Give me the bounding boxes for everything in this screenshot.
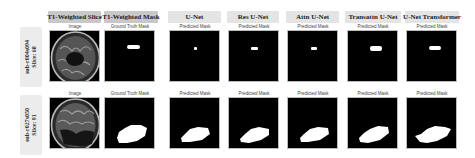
row-2-slice: Slice: 91 (31, 114, 37, 136)
column-header-unet: U-Net (168, 11, 221, 23)
transattn-unet-mask-r2 (347, 97, 398, 149)
subtitle-r2-c7: Predicted Mask (406, 91, 458, 96)
ground-truth-mask-r2 (104, 97, 155, 149)
column-header-t1-slice: T1-Weighted Slice (48, 11, 101, 23)
subtitle-r2-c1: Image (49, 91, 101, 96)
row-label-1: sub-r004s094Slice: 68 (20, 27, 42, 87)
column-header-res-unet: Res U-Net (227, 11, 279, 23)
column-header-transattn-unet: Transattn U-Net (345, 11, 401, 23)
res-unet-mask-r1 (228, 30, 279, 82)
column-header-unet-transformer: U-Net Transformer (405, 11, 459, 23)
subtitle-r1-c1: Image (49, 24, 101, 29)
subtitle-r2-c2: Ground Truth Mask (104, 91, 156, 96)
subtitle-r2-c6: Predicted Mask (347, 91, 399, 96)
subtitle-r1-c7: Predicted Mask (406, 24, 458, 29)
row-2-subject: sub-r027s050 (24, 108, 30, 142)
row-label-2: sub-r027s050Slice: 91 (20, 95, 42, 155)
brain-mri-image-r2 (49, 97, 100, 149)
subtitle-r2-c5: Predicted Mask (287, 91, 339, 96)
subtitle-r1-c5: Predicted Mask (287, 24, 339, 29)
subtitle-r2-c4: Predicted Mask (228, 91, 280, 96)
attn-unet-mask-r2 (287, 97, 338, 149)
unet-transformer-mask-r2 (406, 97, 457, 149)
subtitle-r1-c2: Ground Truth Mask (104, 24, 156, 29)
unet-mask-r1 (169, 30, 220, 82)
column-header-attn-unet: Attn U-Net (286, 11, 339, 23)
brain-mri-image-r1 (49, 30, 100, 82)
ground-truth-mask-r1 (104, 30, 155, 82)
subtitle-r2-c3: Predicted Mask (169, 91, 221, 96)
subtitle-r1-c6: Predicted Mask (347, 24, 399, 29)
subtitle-r1-c3: Predicted Mask (169, 24, 221, 29)
row-1-slice: Slice: 68 (31, 46, 37, 68)
unet-mask-r2 (169, 97, 220, 149)
column-header-t1-mask: T1-Weighted Mask (104, 11, 158, 23)
attn-unet-mask-r1 (287, 30, 338, 82)
res-unet-mask-r2 (228, 97, 279, 149)
subtitle-r1-c4: Predicted Mask (228, 24, 280, 29)
row-1-subject: sub-r004s094 (24, 40, 30, 74)
transattn-unet-mask-r1 (347, 30, 398, 82)
unet-transformer-mask-r1 (406, 30, 457, 82)
